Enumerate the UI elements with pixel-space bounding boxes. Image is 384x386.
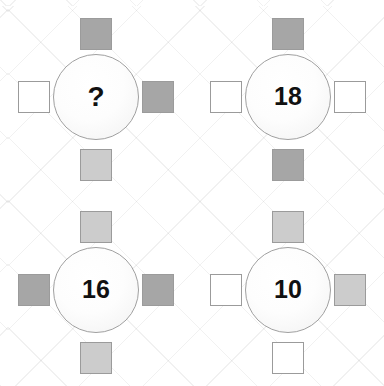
- circle-bottom-right: 10: [245, 247, 331, 333]
- square-bottom-right-left: [210, 274, 242, 306]
- square-top-left-left: [18, 81, 50, 113]
- puzzle-cell-bottom-left: 16: [0, 193, 192, 386]
- square-top-left-right: [142, 81, 174, 113]
- circle-top-right: 18: [245, 54, 331, 140]
- circle-value-top-right: 18: [274, 84, 302, 109]
- square-bottom-left-left: [18, 274, 50, 306]
- square-bottom-left-right: [142, 274, 174, 306]
- square-top-left-bottom: [80, 149, 112, 181]
- square-bottom-right-bottom: [272, 342, 304, 374]
- square-top-right-bottom: [272, 149, 304, 181]
- puzzle-cell-grid: ?181610: [0, 0, 384, 386]
- puzzle-cell-bottom-right: 10: [192, 193, 384, 386]
- square-top-right-left: [210, 81, 242, 113]
- unknown-value-placeholder: ?: [87, 83, 104, 111]
- square-bottom-left-bottom: [80, 342, 112, 374]
- puzzle-board: ?181610: [0, 0, 384, 386]
- square-top-left-top: [80, 18, 112, 50]
- circle-value-bottom-right: 10: [274, 277, 302, 302]
- circle-value-bottom-left: 16: [82, 277, 110, 302]
- square-bottom-right-top: [272, 211, 304, 243]
- puzzle-cell-top-left: ?: [0, 0, 192, 193]
- square-bottom-right-right: [334, 274, 366, 306]
- square-top-right-right: [334, 81, 366, 113]
- square-top-right-top: [272, 18, 304, 50]
- puzzle-cell-top-right: 18: [192, 0, 384, 193]
- circle-bottom-left: 16: [53, 247, 139, 333]
- circle-top-left[interactable]: ?: [53, 54, 139, 140]
- square-bottom-left-top: [80, 211, 112, 243]
